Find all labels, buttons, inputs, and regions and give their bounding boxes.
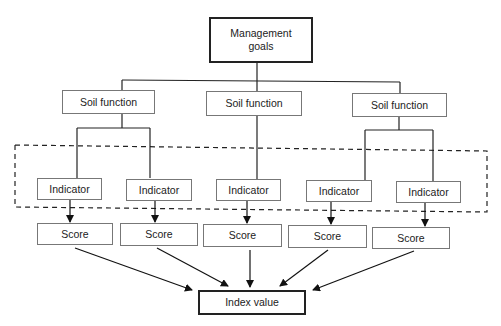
indicator-node-4: Indicator — [306, 180, 372, 202]
score-label: Score — [314, 230, 341, 243]
root-connectors — [122, 63, 400, 93]
indicator-node-1: Indicator — [37, 178, 102, 200]
indicator-node-5: Indicator — [396, 181, 461, 203]
score-label: Score — [61, 228, 88, 241]
indicator-label: Indicator — [408, 186, 448, 199]
soil-function-label: Soil function — [371, 99, 428, 112]
score-node-5: Score — [372, 227, 450, 249]
score-label: Score — [229, 229, 256, 242]
indicator-label: Indicator — [139, 184, 179, 197]
score-label: Score — [145, 228, 172, 241]
index-value-node: Index value — [198, 290, 306, 315]
management-goals-label-line1: Management — [230, 27, 291, 40]
indicator-node-2: Indicator — [126, 179, 192, 201]
soil-function-node-1: Soil function — [62, 90, 155, 114]
score-label: Score — [397, 232, 424, 245]
soil-function-node-3: Soil function — [352, 93, 447, 117]
score-node-2: Score — [120, 223, 198, 246]
score-node-1: Score — [37, 223, 113, 245]
soil-function-label: Soil function — [225, 97, 282, 110]
management-goals-label-line2: goals — [248, 40, 273, 53]
indicator-label: Indicator — [228, 184, 268, 197]
soil-function-node-2: Soil function — [206, 91, 302, 116]
soil-function-connectors — [77, 114, 433, 181]
score-node-4: Score — [288, 225, 367, 248]
indicator-label: Indicator — [319, 185, 359, 198]
score-to-index-arrows — [75, 248, 414, 290]
index-value-label: Index value — [225, 296, 279, 309]
soil-function-label: Soil function — [80, 96, 137, 109]
indicator-node-3: Indicator — [216, 179, 281, 201]
indicator-label: Indicator — [49, 183, 89, 196]
score-node-3: Score — [203, 224, 282, 247]
management-goals-node: Management goals — [209, 17, 313, 63]
